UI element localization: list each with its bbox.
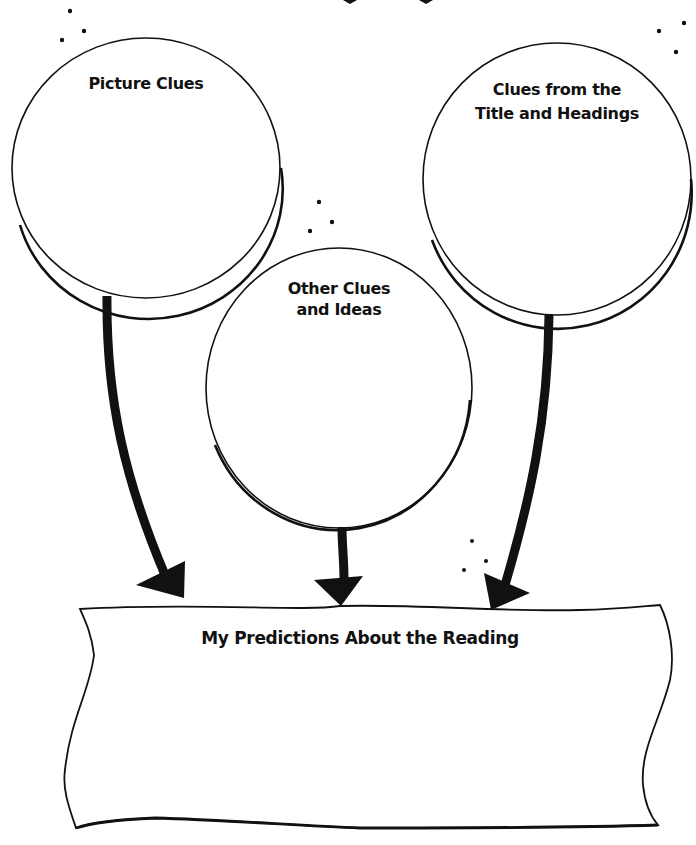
other-clues-writing-area[interactable] [230,330,448,510]
top-ornament-icon [343,0,357,4]
other-clues-line-1: Other Clues [239,278,439,299]
banner-title: My Predictions About the Reading [160,627,560,650]
picture-clues-writing-area[interactable] [40,105,252,275]
title-clues-line-1: Clues from the [457,78,657,102]
arrow-left [107,296,185,598]
title-clues-line-2: Title and Headings [457,102,657,126]
other-clues-line-2: and Ideas [239,299,439,320]
title-clues-writing-area[interactable] [450,135,664,295]
arrow-middle [314,527,363,606]
predictions-writing-area[interactable] [100,660,620,810]
arrow-right [484,315,549,610]
picture-clues-line-1: Picture Clues [46,72,246,95]
title-clues-label: Clues from the Title and Headings [457,78,657,126]
top-ornament-icon [419,0,433,4]
picture-clues-label: Picture Clues [46,72,246,95]
other-clues-label: Other Clues and Ideas [239,278,439,320]
